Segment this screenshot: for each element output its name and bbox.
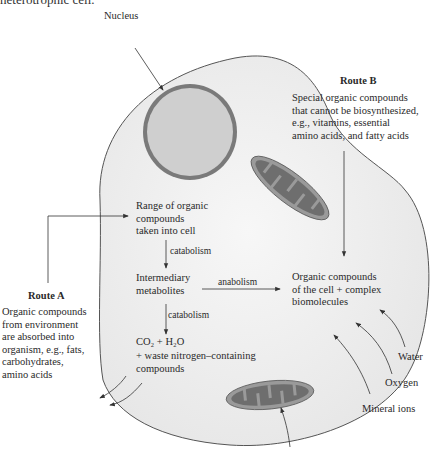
route-a-title: Route A <box>28 290 64 303</box>
anabolism-label: anabolism <box>218 276 257 289</box>
label-nucleus: Nucleus <box>104 10 138 23</box>
catabolism-label-2: catabolism <box>168 309 209 322</box>
organic-cell-label: Organic compounds of the cell + complex … <box>292 271 381 309</box>
oxygen-label: Oxygen <box>385 377 418 390</box>
water-label: Water <box>398 351 423 364</box>
mineral-ions-label: Mineral ions <box>362 403 415 416</box>
nucleus-icon <box>143 84 237 180</box>
cell-diagram <box>0 0 436 455</box>
route-a-text: Organic compounds from environment are a… <box>2 306 87 381</box>
route-b-text: Special organic compounds that cannot be… <box>292 92 419 142</box>
nucleus-pointer <box>135 48 163 90</box>
route-b-title: Route B <box>340 75 376 88</box>
intermediary-label: Intermediary metabolites <box>136 272 190 297</box>
range-label: Range of organic compounds taken into ce… <box>136 200 208 238</box>
waste-label: + waste nitrogen–containing compounds <box>136 350 256 375</box>
co2-h2o-label: CO₂ + H₂O <box>136 336 184 349</box>
catabolism-label-1: catabolism <box>170 245 211 258</box>
